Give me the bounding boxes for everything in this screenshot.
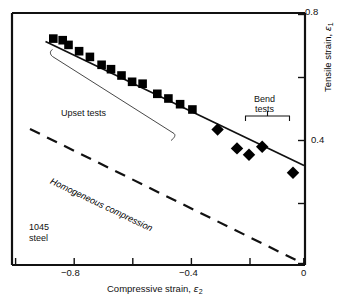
- y-axis-title-text: Tensile strain,: [322, 31, 333, 92]
- x-axis-epsilon-symbol: ε: [194, 283, 199, 294]
- y-axis-epsilon-symbol: ε: [322, 26, 333, 31]
- xtick-label-neg0.8: −0.8: [61, 267, 80, 278]
- x-axis-title: Compressive strain, ε2: [107, 283, 203, 295]
- figure-chart-strain-locus: 0.8 0.4 −0.8 −0.4 0 Compressive strain, …: [0, 0, 361, 298]
- y-axis-subscript: 1: [327, 22, 334, 26]
- x-axis-title-text: Compressive strain,: [107, 283, 194, 294]
- x-axis-subscript: 2: [199, 288, 203, 295]
- material-label-line2: steel: [29, 233, 48, 244]
- ytick-label-0.8: 0.8: [305, 6, 318, 17]
- plot-canvas: [0, 0, 361, 298]
- ytick-label-0.4: 0.4: [311, 134, 324, 145]
- y-axis-title: Tensile strain, ε1: [322, 22, 333, 92]
- series-upset-tests-markers: [49, 34, 197, 114]
- xtick-label-neg0.4: −0.4: [179, 267, 198, 278]
- bend-tests-label-line2: tests: [255, 104, 274, 115]
- plot-frame: [12, 13, 305, 265]
- xtick-label-zero: 0: [301, 267, 306, 278]
- upset-tests-label: Upset tests: [61, 108, 106, 119]
- series-bend-tests-markers: [211, 123, 299, 179]
- material-label-line1: 1045: [29, 222, 49, 233]
